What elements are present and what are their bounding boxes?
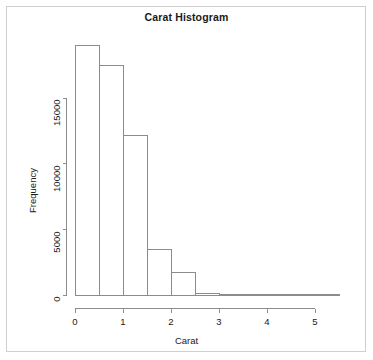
histogram-bars: [75, 45, 339, 295]
histogram-bar: [147, 249, 171, 295]
histogram-plot: [0, 0, 373, 360]
histogram-bar: [99, 66, 123, 295]
histogram-bar: [123, 135, 147, 295]
histogram-bar: [75, 45, 99, 295]
chart-screenshot: Carat Histogram Frequency Carat 0 5000 1…: [0, 0, 373, 360]
x-axis: [75, 309, 315, 313]
y-axis: [63, 98, 67, 295]
histogram-bar: [171, 273, 195, 295]
